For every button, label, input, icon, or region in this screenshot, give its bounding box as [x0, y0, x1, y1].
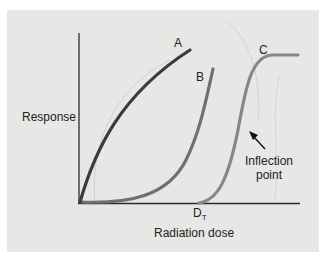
- y-axis-label: Response: [22, 110, 76, 124]
- curve-b-label: B: [196, 70, 204, 84]
- curve-b: [80, 69, 213, 202]
- sketch-line: [94, 60, 170, 203]
- threshold-main: D: [193, 206, 202, 220]
- dose-response-plot: [0, 0, 326, 259]
- inflection-line1: Inflection: [245, 154, 293, 168]
- threshold-dose-label: DT: [193, 206, 207, 222]
- inflection-point-label: Inflection point: [245, 154, 293, 182]
- threshold-sub: T: [202, 213, 207, 222]
- curve-a-label: A: [174, 36, 182, 50]
- arrow-head-icon: [249, 131, 258, 140]
- inflection-line2: point: [245, 168, 293, 182]
- curve-c-label: C: [259, 43, 268, 57]
- x-axis-label: Radiation dose: [154, 226, 234, 240]
